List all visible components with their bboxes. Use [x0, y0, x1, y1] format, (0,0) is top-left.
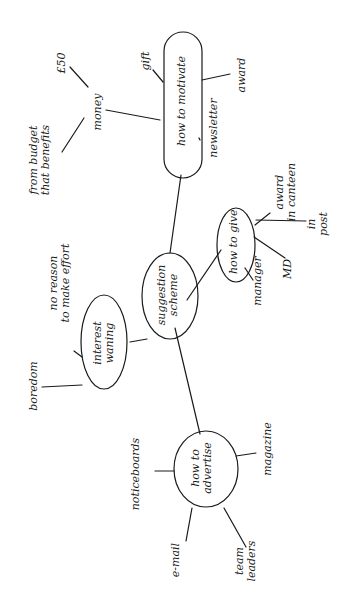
label-magazine: magazine: [262, 418, 274, 480]
label-boredom: boredom: [28, 358, 40, 414]
label-award-in-canteen: award in canteen: [274, 162, 298, 222]
label-email: e-mail: [170, 538, 182, 582]
label-fifty-pounds: £50: [56, 48, 68, 78]
label-no-reason: no reason to make effort: [48, 230, 72, 336]
label-how-to-motivate: how to motivate: [176, 36, 188, 166]
label-suggestion-scheme: suggestion scheme: [156, 260, 180, 330]
label-team-leaders: team leaders: [234, 536, 258, 586]
label-in-post: in post: [306, 208, 330, 240]
label-md: MD: [282, 258, 294, 280]
mind-map: how to motivate money £50 from budget th…: [0, 0, 341, 615]
label-newsletter: newsletter: [208, 96, 220, 160]
label-gift: gift: [140, 48, 152, 74]
label-how-to-give: how to give: [228, 210, 240, 274]
label-manager: manager: [252, 254, 264, 308]
label-money: money: [92, 88, 104, 136]
label-interest-waning: interest waning: [92, 306, 116, 380]
label-award: award: [236, 50, 248, 100]
label-how-to-advertise: how to advertise: [190, 436, 214, 500]
label-noticeboards: noticeboards: [130, 436, 142, 512]
label-from-budget: from budget that benefits: [28, 120, 52, 200]
